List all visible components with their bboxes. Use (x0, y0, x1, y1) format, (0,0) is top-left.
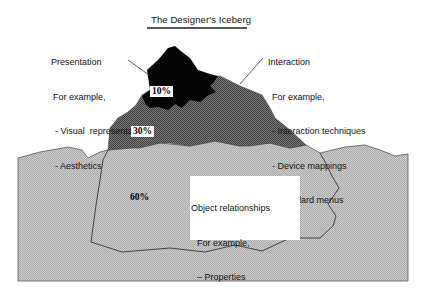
interaction-heading: Interaction (268, 57, 366, 69)
interaction-item: - Device mappings (268, 161, 366, 173)
object-relationships-heading: Object relationships (191, 203, 284, 215)
object-relationships-item: – Properties (191, 272, 284, 284)
presentation-intro: For example, (51, 92, 152, 104)
interaction-intro: For example, (268, 92, 366, 104)
diagram-title: The Designer's Iceberg (151, 14, 251, 25)
interaction-item: - Interaction techniques (268, 126, 366, 138)
percent-label-presentation: 10% (150, 86, 173, 97)
interaction-leader-line (240, 58, 263, 84)
presentation-heading: Presentation (51, 57, 152, 69)
object-relationships-note: Object relationships For example, – Prop… (191, 180, 284, 295)
presentation-note: Presentation For example, - Visual repre… (51, 34, 152, 184)
percent-label-interaction: 30% (131, 126, 154, 137)
object-relationships-intro: For example, (191, 238, 284, 250)
title-underline (147, 27, 247, 29)
presentation-item: - Aesthetics (51, 161, 152, 173)
percent-label-object-relationships: 60% (128, 192, 151, 203)
